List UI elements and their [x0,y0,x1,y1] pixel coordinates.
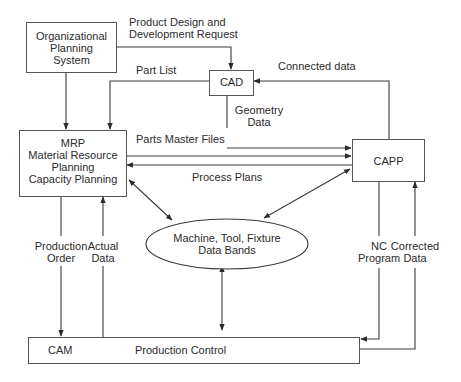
edge-mrp-databands [129,180,172,220]
node-org-planning-label: Organizational Planning System [26,30,117,66]
label-process-plans: Process Plans [192,171,262,183]
edge-corrected-data-bottom [359,268,415,349]
label-corrected-data: Corrected Data [385,240,445,264]
label-actual-data: Actual Data [78,240,128,264]
label-geometry-data: Geometry Data [234,104,284,128]
node-capp-label: CAPP [352,155,425,167]
node-cad-label: CAD [209,76,254,88]
node-production-control-label: Production Control [135,344,226,356]
label-parts-master-files: Parts Master Files [136,133,225,145]
label-connected-data: Connected data [278,60,356,72]
node-mrp-label: MRP Material Resource Planning Capacity … [19,137,127,185]
edge-capp-databands [264,169,350,218]
edge-part-list [110,81,209,129]
node-cam-label: CAM [48,344,72,356]
node-data-bands-label: Machine, Tool, Fixture Data Bands [147,232,307,256]
edge-nc-program [361,268,379,339]
label-product-design: Product Design and Development Request [129,16,238,40]
label-part-list: Part List [136,64,176,76]
